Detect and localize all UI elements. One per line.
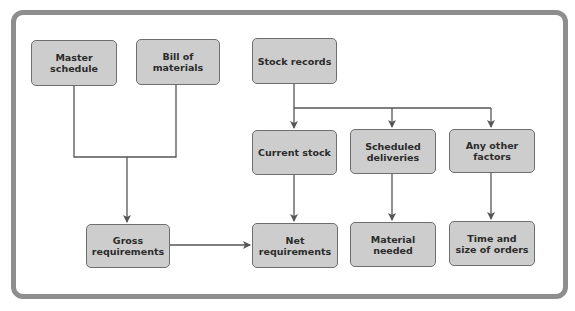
join-line	[74, 85, 176, 157]
node-label: Material needed	[355, 234, 431, 256]
node-current-stock: Current stock	[252, 130, 337, 175]
node-label: Net requirements	[257, 235, 333, 257]
node-material-needed: Material needed	[350, 222, 436, 267]
node-label-line2: deliveries	[367, 152, 419, 163]
node-label-line1: Scheduled	[365, 141, 421, 152]
node-label: Master schedule	[36, 52, 112, 74]
node-time-and-size: Time and size of orders	[449, 221, 535, 266]
node-gross-requirements: Gross requirements	[86, 224, 170, 268]
node-label-line2: size of orders	[456, 244, 529, 255]
node-any-other-factors: Any other factors	[449, 129, 535, 173]
node-label-line1: Gross	[113, 235, 143, 246]
node-label-line2: factors	[473, 151, 511, 162]
node-net-requirements: Net requirements	[252, 223, 338, 268]
node-bill-of-materials: Bill of materials	[136, 39, 220, 85]
node-label: Bill of materials	[141, 51, 215, 73]
node-label-line1: Time and	[467, 233, 516, 244]
node-label-line2: requirements	[92, 246, 164, 257]
node-master-schedule: Master schedule	[31, 40, 117, 86]
node-label-line1: Any other	[466, 140, 519, 151]
node-stock-records: Stock records	[252, 38, 337, 84]
node-label: Current stock	[258, 147, 331, 158]
node-scheduled-deliveries: Scheduled deliveries	[350, 129, 436, 174]
node-label: Stock records	[258, 56, 332, 67]
